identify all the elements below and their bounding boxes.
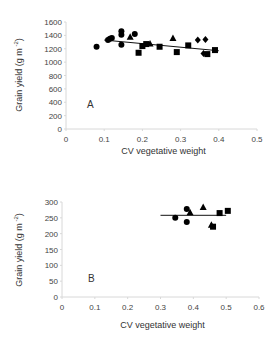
y-tick-label: 250 [45,214,59,223]
x-tick-label: 0.4 [188,303,200,312]
data-point-circle [94,44,100,50]
y-tick-label: 200 [49,112,63,121]
y-tick-label: 800 [49,72,63,81]
chart-panel-a: 0200400600800100012001400160000.10.20.30… [13,18,263,156]
x-tick-label: 0.3 [175,135,187,144]
y-axis-label: Grain yield (g m -2) [13,213,24,287]
data-point-triangle [169,35,176,42]
data-point-circle [109,35,115,41]
x-tick-label: 0.2 [137,135,149,144]
y-tick-label: 200 [45,230,59,239]
x-tick-label: 0.3 [155,303,167,312]
y-tick-label: 600 [49,85,63,94]
y-tick-label: 1200 [44,45,62,54]
data-point-square [174,49,180,55]
y-tick-label: 1400 [44,31,62,40]
data-point-circle [172,215,178,221]
data-point-square [217,210,223,216]
y-tick-label: 300 [45,198,59,207]
x-tick-label: 0.5 [221,303,233,312]
x-axis-label: CV vegetative weight [121,146,206,156]
x-tick-label: 0.1 [99,135,111,144]
y-tick-label: 0 [58,125,63,134]
data-point-triangle [200,204,207,211]
x-tick-label: 0.1 [89,303,101,312]
data-point-circle [118,32,124,38]
x-tick-label: 0 [64,135,69,144]
y-tick-label: 400 [49,98,63,107]
y-tick-label: 1600 [44,18,62,27]
y-tick-label: 0 [54,293,59,302]
x-tick-label: 0.4 [213,135,225,144]
data-point-circle [132,31,138,37]
data-point-square [143,41,149,47]
data-point-square [210,224,216,230]
data-point-square [185,42,191,48]
data-point-circle [184,219,190,225]
data-point-square [136,50,142,56]
y-tick-label: 100 [45,261,59,270]
data-point-diamond [202,36,208,43]
x-tick-label: 0.6 [253,303,265,312]
y-axis-label: Grain yield (g m -2) [13,38,24,112]
panel-label: A [87,99,94,110]
data-point-square [212,47,218,53]
y-tick-label: 50 [49,277,58,286]
data-point-diamond [195,37,201,44]
data-point-square [225,208,231,214]
y-tick-label: 1000 [44,58,62,67]
y-tick-label: 150 [45,246,59,255]
data-point-square [157,44,163,50]
panel-label: B [88,273,95,284]
chart-figure: 0200400600800100012001400160000.10.20.30… [0,0,278,338]
x-tick-label: 0.5 [251,135,263,144]
x-tick-label: 0 [60,303,65,312]
x-axis-label: CV vegetative weight [120,320,205,330]
x-tick-label: 0.2 [122,303,134,312]
chart-panel-b: 05010015020025030000.10.20.30.40.50.6CV … [13,198,265,330]
data-point-circle [118,42,124,48]
